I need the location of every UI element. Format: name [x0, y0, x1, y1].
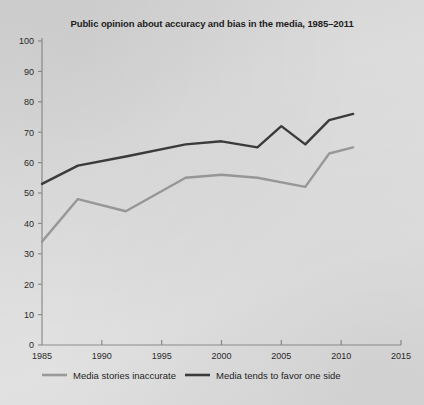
y-axis-tick-label: 40 — [24, 219, 34, 229]
series-line — [42, 147, 353, 241]
x-axis-tick-label: 1990 — [92, 351, 112, 361]
y-axis-tick-label: 60 — [24, 158, 34, 168]
y-axis-tick-label: 10 — [24, 310, 34, 320]
chart-figure: Public opinion about accuracy and bias i… — [0, 0, 424, 405]
y-axis-tick-label: 90 — [24, 67, 34, 77]
y-axis-tick-label: 30 — [24, 249, 34, 259]
y-axis-tick-label: 20 — [24, 280, 34, 290]
y-axis-tick-label: 100 — [19, 36, 34, 46]
y-axis-tick-label: 70 — [24, 128, 34, 138]
x-axis: 1985199019952000200520102015 — [32, 340, 411, 361]
y-axis: 0102030405060708090100 — [19, 36, 42, 350]
legend-label: Media tends to favor one side — [216, 370, 341, 381]
y-axis-tick-label: 0 — [29, 340, 34, 350]
chart-legend: Media stories inaccurateMedia tends to f… — [42, 370, 341, 381]
series-line — [42, 114, 353, 184]
x-axis-tick-label: 1985 — [32, 351, 52, 361]
x-axis-tick-label: 2015 — [391, 351, 411, 361]
x-axis-tick-label: 2005 — [271, 351, 291, 361]
legend-label: Media stories inaccurate — [73, 370, 176, 381]
line-chart-plot: 0102030405060708090100 19851990199520002… — [0, 0, 424, 405]
data-series-group — [42, 114, 353, 242]
x-axis-tick-label: 2010 — [331, 351, 351, 361]
y-axis-tick-label: 50 — [24, 188, 34, 198]
x-axis-tick-label: 1995 — [152, 351, 172, 361]
x-axis-tick-label: 2000 — [211, 351, 231, 361]
y-axis-tick-label: 80 — [24, 97, 34, 107]
